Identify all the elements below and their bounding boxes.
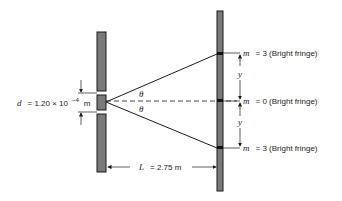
L-label: L = 2.75 m: [138, 156, 182, 173]
m-symbol: m: [243, 143, 250, 153]
fringe-mark-center: [217, 99, 223, 102]
barrier-top-segment: [97, 32, 106, 91]
m-symbol: m: [243, 48, 250, 58]
fringe-mark-bottom: [217, 146, 223, 149]
angle-theta-top: θ: [139, 89, 144, 99]
fringe-mark-top: [217, 52, 223, 55]
d-unit: m: [84, 99, 91, 108]
L-value: = 2.75 m: [150, 163, 182, 172]
double-slit-diagram: θ θ d = 1.20 × 10 −4 m L = 2.75 m y y m …: [0, 0, 342, 201]
fringe-label-top: m = 3 (Bright fringe): [243, 42, 318, 59]
m-symbol: m: [243, 96, 250, 106]
barrier-middle-segment: [97, 95, 106, 110]
fringe-text: = 3 (Bright fringe): [256, 49, 318, 58]
fringe-label-center: m = 0 (Bright fringe): [243, 90, 318, 107]
d-symbol: d: [17, 98, 22, 108]
y-label-top: y: [237, 69, 242, 79]
fringe-text: = 3 (Bright fringe): [256, 144, 318, 153]
d-label: d = 1.20 × 10 −4 m: [17, 88, 91, 109]
fringe-label-bottom: m = 3 (Bright fringe): [243, 137, 318, 154]
d-value: = 1.20 × 10: [28, 99, 69, 108]
ray-upper: [106, 54, 217, 102]
L-symbol: L: [138, 162, 144, 172]
y-label-bottom: y: [237, 117, 242, 127]
angle-theta-bottom: θ: [139, 104, 144, 114]
ray-lower: [106, 102, 217, 148]
barrier-bottom-segment: [97, 114, 106, 172]
fringe-text: = 0 (Bright fringe): [256, 97, 318, 106]
d-exponent: −4: [72, 97, 80, 103]
